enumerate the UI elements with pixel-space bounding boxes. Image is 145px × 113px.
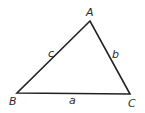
vertex-label-b: B <box>9 95 17 108</box>
side-label-a: a <box>69 94 76 107</box>
vertex-label-c: C <box>128 97 136 110</box>
side-label-b: b <box>112 48 119 61</box>
vertex-label-a: A <box>85 6 94 19</box>
triangle-diagram: A B C a b c <box>0 0 145 113</box>
side-label-c: c <box>48 47 54 60</box>
